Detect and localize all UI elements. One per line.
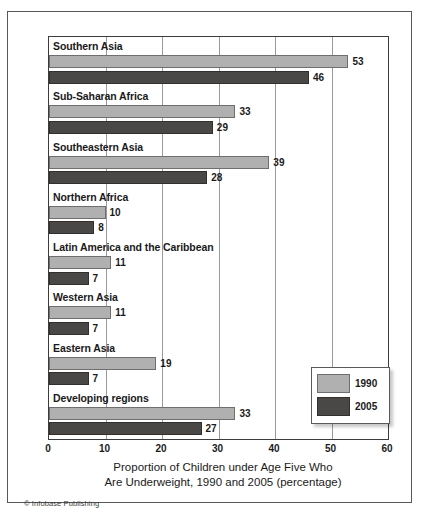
- x-tick-40: 40: [268, 443, 279, 454]
- bar-group: Southeastern Asia3928: [49, 138, 388, 188]
- bar-value-label: 33: [235, 407, 250, 420]
- x-tick-50: 50: [325, 443, 336, 454]
- category-label: Northern Africa: [53, 188, 128, 206]
- category-label: Western Asia: [53, 288, 118, 306]
- bar[interactable]: [49, 407, 235, 420]
- bar-value-label: 11: [111, 306, 126, 319]
- bar[interactable]: [49, 422, 202, 435]
- bar[interactable]: [49, 221, 94, 234]
- bar[interactable]: [49, 322, 89, 335]
- bar-group: Southern Asia5346: [49, 37, 388, 87]
- category-label: Southeastern Asia: [53, 138, 143, 156]
- bar[interactable]: [49, 206, 106, 219]
- bar-value-label: 7: [89, 322, 99, 335]
- x-tick-30: 30: [212, 443, 223, 454]
- bar-value-label: 28: [207, 171, 222, 184]
- bar-group: Sub-Saharan Africa3329: [49, 87, 388, 137]
- bar-value-label: 53: [348, 55, 363, 68]
- bar-value-label: 8: [94, 221, 104, 234]
- figure-frame: Southern Asia5346Sub-Saharan Africa3329S…: [7, 11, 412, 503]
- bar-value-label: 19: [156, 357, 171, 370]
- bar[interactable]: [49, 171, 207, 184]
- category-label: Latin America and the Caribbean: [53, 238, 213, 256]
- x-tick-20: 20: [155, 443, 166, 454]
- category-label: Developing regions: [53, 389, 149, 407]
- x-tick-0: 0: [45, 443, 51, 454]
- bar-value-label: 27: [202, 422, 217, 435]
- bar-value-label: 7: [89, 272, 99, 285]
- category-label: Southern Asia: [53, 37, 123, 55]
- bar[interactable]: [49, 256, 111, 269]
- bar-value-label: 7: [89, 372, 99, 385]
- axis-title-line-1: Proportion of Children under Age Five Wh…: [38, 460, 408, 475]
- chart-legend: 19902005: [311, 367, 390, 424]
- copyright-credit: © Infobase Publishing: [24, 499, 99, 508]
- legend-item-2005[interactable]: 2005: [317, 397, 387, 417]
- axis-title-line-2: Are Underweight, 1990 and 2005 (percenta…: [38, 475, 408, 490]
- legend-swatch-2005: [317, 397, 350, 416]
- category-label: Eastern Asia: [53, 339, 115, 357]
- axis-title: Proportion of Children under Age Five Wh…: [38, 460, 408, 490]
- bar-value-label: 10: [106, 206, 121, 219]
- bar-group: Latin America and the Caribbean117: [49, 238, 388, 288]
- legend-label: 1990: [355, 374, 377, 393]
- bar-value-label: 46: [309, 71, 324, 84]
- bar[interactable]: [49, 55, 348, 68]
- bar[interactable]: [49, 306, 111, 319]
- bar-value-label: 39: [269, 156, 284, 169]
- bar[interactable]: [49, 105, 235, 118]
- x-tick-60: 60: [381, 443, 392, 454]
- bar[interactable]: [49, 121, 213, 134]
- bar-group: Western Asia117: [49, 288, 388, 338]
- legend-label: 2005: [355, 397, 377, 416]
- bar-value-label: 29: [213, 121, 228, 134]
- bar[interactable]: [49, 156, 269, 169]
- bar-group: Northern Africa108: [49, 188, 388, 238]
- x-tick-10: 10: [99, 443, 110, 454]
- category-label: Sub-Saharan Africa: [53, 87, 148, 105]
- bar[interactable]: [49, 272, 89, 285]
- bar-value-label: 33: [235, 105, 250, 118]
- bar[interactable]: [49, 357, 156, 370]
- legend-item-1990[interactable]: 1990: [317, 374, 387, 394]
- bar[interactable]: [49, 372, 89, 385]
- bar-value-label: 11: [111, 256, 126, 269]
- legend-swatch-1990: [317, 374, 350, 393]
- x-axis: 0102030405060: [48, 440, 389, 458]
- bar[interactable]: [49, 71, 309, 84]
